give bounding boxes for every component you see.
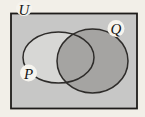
set-q-label: Q — [111, 21, 122, 37]
venn-diagram-svg: U P Q — [0, 0, 145, 117]
venn-diagram-figure: U P Q — [0, 0, 145, 117]
universe-label: U — [19, 2, 31, 18]
set-p-label: P — [23, 66, 33, 82]
